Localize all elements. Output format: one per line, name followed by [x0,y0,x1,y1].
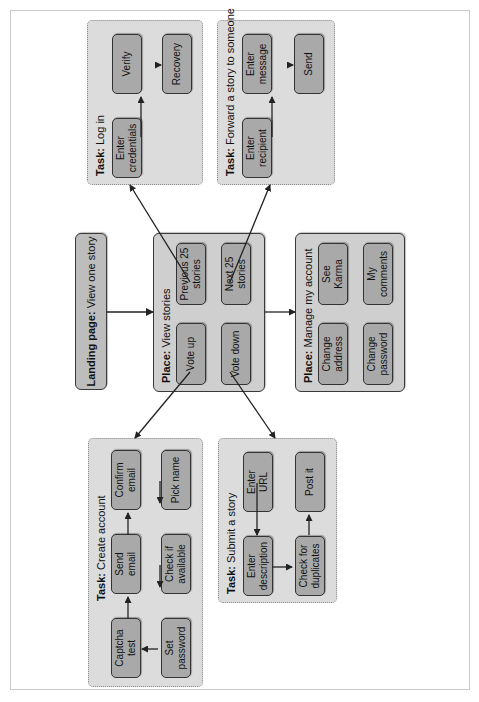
task-create-account[interactable]: Task: Create account Captcha test Send e… [88,438,203,687]
node-enter-url[interactable]: Enter URL [243,452,273,512]
node-vote-up[interactable]: Vote up [176,323,206,385]
node-confirm-email[interactable]: Confirm email [111,450,141,510]
landing-page-box[interactable]: Landing page: View one story [75,233,107,390]
place-manage-account[interactable]: Place: Manage my account Change address … [295,233,405,392]
node-check-duplicates[interactable]: Check for duplicates [295,536,325,596]
node-enter-message[interactable]: Enter message [242,34,272,94]
node-enter-recipient[interactable]: Enter recipient [242,118,272,178]
node-enter-credentials[interactable]: Enter credentials [112,118,142,178]
node-captcha-test[interactable]: Captcha test [111,618,141,678]
diagram-canvas: Landing page: View one story Place: View… [0,0,479,702]
task-create-account-title: Task: Create account [95,495,107,601]
node-change-password[interactable]: Change password [363,323,393,385]
node-change-address[interactable]: Change address [318,323,348,385]
node-my-comments[interactable]: My comments [363,243,393,305]
node-check-if-available[interactable]: Check if available [161,534,191,594]
node-next-25-stories[interactable]: Next 25 stories [221,243,251,305]
node-verify[interactable]: Verify [112,34,142,94]
node-send-email[interactable]: Send email [111,534,141,594]
node-send[interactable]: Send [294,34,324,94]
task-forward-story-title: Task: Forward a story to someone [224,8,236,176]
task-submit-story-title: Task: Submit a story [225,493,237,594]
task-log-in[interactable]: Task: Log in Enter credentials Verify Re… [87,20,203,185]
task-forward-story[interactable]: Task: Forward a story to someone Enter r… [217,20,335,185]
node-previous-25-stories[interactable]: Previous 25 stories [176,243,206,305]
place-view-stories-title: Place: View stories [160,288,172,383]
place-manage-account-title: Place: Manage my account [302,248,314,383]
node-vote-down[interactable]: Vote down [221,323,251,385]
node-set-password[interactable]: Set password [161,618,191,678]
node-recovery[interactable]: Recovery [162,34,192,94]
node-see-karma[interactable]: See Karma [318,243,348,305]
node-pick-name[interactable]: Pick name [161,450,191,510]
place-view-stories[interactable]: Place: View stories Vote up Vote down Pr… [153,233,265,392]
node-post-it[interactable]: Post it [295,452,325,512]
task-log-in-title: Task: Log in [94,115,106,176]
task-submit-story[interactable]: Task: Submit a story Enter URL Enter des… [218,438,337,603]
landing-page-title: Landing page: View one story [85,236,97,386]
node-enter-description[interactable]: Enter description [243,536,273,596]
